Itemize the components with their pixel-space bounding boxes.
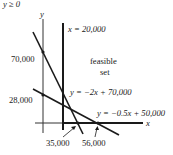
arrow-head-56000-icon bbox=[95, 126, 99, 130]
intercept-dot-35000 bbox=[76, 121, 79, 124]
intercept-dot-28000 bbox=[41, 93, 44, 96]
constraint-label-shallow: y = −0.5x + 50,000 bbox=[96, 108, 166, 118]
y-axis-label: y bbox=[39, 9, 44, 19]
constraint-label-vertical: x = 20,000 bbox=[67, 24, 106, 34]
y-intercept-label-28000: 28,000 bbox=[9, 95, 33, 105]
x-axis-label: x bbox=[145, 118, 150, 128]
x-intercept-label-56000: 56,000 bbox=[82, 138, 106, 148]
y-intercept-label-70000: 70,000 bbox=[11, 54, 35, 64]
x-intercept-label-35000: 35,000 bbox=[46, 138, 70, 148]
feasible-set-label-line1: feasible bbox=[90, 56, 117, 66]
feasible-set-label-line2: set bbox=[100, 67, 110, 77]
intercept-dot-70000 bbox=[41, 50, 44, 53]
constraint-label-steep: y = −2x + 70,000 bbox=[69, 87, 132, 97]
constraint-line-steep bbox=[33, 32, 83, 134]
header-fragment: y ≥ 0 bbox=[2, 0, 21, 9]
feasible-set-diagram: y ≥ 0 y x x = 20,000 y = −2x + 70,000 y … bbox=[0, 0, 173, 155]
intercept-dot-56000 bbox=[96, 121, 99, 124]
